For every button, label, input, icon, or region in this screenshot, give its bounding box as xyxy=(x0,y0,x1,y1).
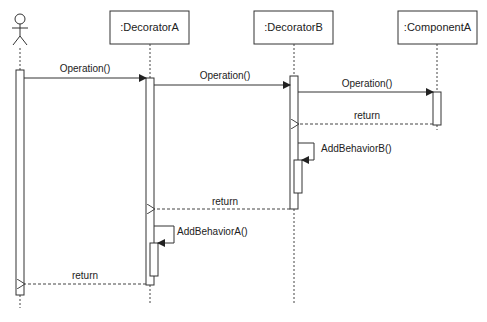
message-add-behavior-b: AddBehaviorB() xyxy=(298,143,392,160)
svg-text:AddBehaviorA(): AddBehaviorA() xyxy=(177,226,248,237)
svg-text:return: return xyxy=(354,110,380,121)
lifeline-header-component-a: :ComponentA xyxy=(398,11,477,44)
message-operation-3: Operation() xyxy=(298,78,433,92)
lifeline-label: :DecoratorA xyxy=(120,21,179,33)
message-return-decorator-b: return xyxy=(155,196,290,209)
svg-text:Operation(): Operation() xyxy=(342,78,393,89)
message-operation-1: Operation() xyxy=(24,63,146,78)
activation-bars xyxy=(16,70,441,295)
lifeline-header-decorator-b: :DecoratorB xyxy=(254,11,333,44)
actor-stick-figure-icon xyxy=(12,14,28,45)
message-operation-2: Operation() xyxy=(154,70,290,85)
svg-text:AddBehaviorB(): AddBehaviorB() xyxy=(321,143,392,154)
sequence-diagram: :DecoratorA :DecoratorB :ComponentA Oper… xyxy=(0,0,487,322)
message-return-component-a: return xyxy=(299,110,433,124)
lifeline-label: :DecoratorB xyxy=(264,21,323,33)
lifeline-label: :ComponentA xyxy=(404,21,472,33)
svg-text:return: return xyxy=(72,270,98,281)
message-return-decorator-a: return xyxy=(25,270,146,284)
svg-text:return: return xyxy=(212,196,238,207)
message-add-behavior-a: AddBehaviorA() xyxy=(154,226,248,243)
svg-text:Operation(): Operation() xyxy=(200,70,251,81)
lifeline-header-decorator-a: :DecoratorA xyxy=(110,11,189,44)
svg-text:Operation(): Operation() xyxy=(60,63,111,74)
